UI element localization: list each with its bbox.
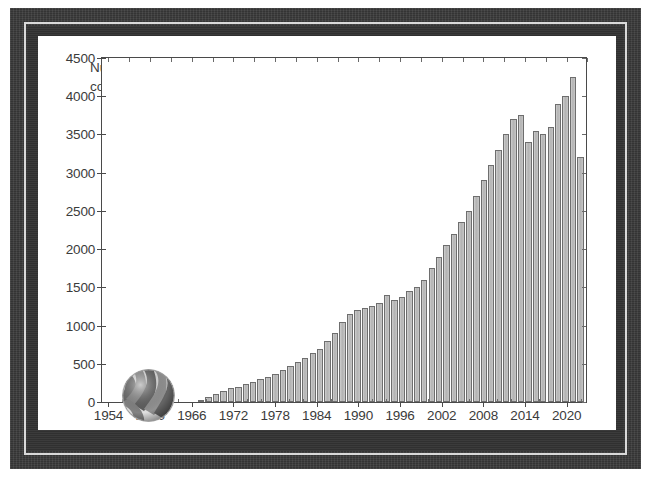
bar xyxy=(220,391,226,402)
x-axis-tick-top xyxy=(400,58,401,62)
x-axis-tick-top-minor xyxy=(587,58,588,62)
x-axis-tick xyxy=(317,402,318,407)
y-axis-tick-right xyxy=(582,96,586,97)
x-axis-tick-top-minor xyxy=(379,58,380,62)
y-axis-tick-right xyxy=(582,58,586,59)
x-axis-tick-top xyxy=(192,58,193,62)
x-axis-tick-top-minor xyxy=(129,58,130,62)
bar xyxy=(250,382,256,402)
x-axis-tick xyxy=(567,402,568,407)
x-axis-label: 1972 xyxy=(219,408,248,423)
x-axis-minor-tick xyxy=(497,399,498,402)
bar xyxy=(555,104,561,402)
y-axis-tick-right xyxy=(582,402,586,403)
x-axis-minor-tick xyxy=(469,399,470,402)
bar xyxy=(272,374,278,402)
y-axis-tick-inner xyxy=(102,96,106,97)
bar xyxy=(510,119,516,402)
bar xyxy=(421,280,427,402)
bar xyxy=(473,196,479,402)
x-axis-label: 1984 xyxy=(302,408,331,423)
x-axis-minor-tick xyxy=(428,399,429,402)
x-axis-minor-tick xyxy=(261,399,262,402)
bar xyxy=(332,333,338,402)
bar xyxy=(228,388,234,402)
x-axis-tick-top xyxy=(525,58,526,62)
x-axis-tick xyxy=(358,402,359,407)
bar xyxy=(302,358,308,402)
x-axis-minor-tick xyxy=(220,399,221,402)
bar xyxy=(429,268,435,402)
bar xyxy=(391,300,397,402)
y-axis-tick-inner xyxy=(102,211,106,212)
x-axis-label: 2002 xyxy=(427,408,456,423)
x-axis-tick-top xyxy=(358,58,359,62)
x-axis-tick-top-minor xyxy=(504,58,505,62)
x-axis-label: 1990 xyxy=(344,408,373,423)
x-axis-tick-top-minor xyxy=(213,58,214,62)
bar xyxy=(198,400,204,402)
x-axis-label: 2020 xyxy=(552,408,581,423)
x-axis-label: 1954 xyxy=(94,408,123,423)
bar xyxy=(562,96,568,402)
x-axis-minor-tick xyxy=(553,399,554,402)
x-axis-label: 1996 xyxy=(385,408,414,423)
bar xyxy=(369,306,375,402)
x-axis-minor-tick xyxy=(386,399,387,402)
y-axis-tick-inner xyxy=(102,173,106,174)
bar xyxy=(577,157,583,402)
x-axis-minor-tick xyxy=(456,399,457,402)
bar xyxy=(339,322,345,402)
x-axis-tick xyxy=(442,402,443,407)
bar xyxy=(443,245,449,402)
bar xyxy=(406,291,412,402)
bar xyxy=(548,127,554,402)
screenshot-root: Number of publications per year containi… xyxy=(0,0,651,477)
bar xyxy=(376,303,382,402)
x-axis-tick-top-minor xyxy=(296,58,297,62)
x-axis-minor-tick xyxy=(345,399,346,402)
bar xyxy=(503,134,509,402)
x-axis-tick-top xyxy=(150,58,151,62)
x-axis-tick-top xyxy=(567,58,568,62)
bar xyxy=(533,131,539,402)
x-axis-tick xyxy=(192,402,193,407)
y-axis-tick-right xyxy=(582,173,586,174)
x-axis-minor-tick xyxy=(303,399,304,402)
bar xyxy=(310,353,316,402)
x-axis-tick-top xyxy=(483,58,484,62)
y-axis-label: 500 xyxy=(73,356,95,371)
y-axis-label: 3500 xyxy=(66,127,95,142)
x-axis-tick xyxy=(108,402,109,407)
y-axis-label: 1500 xyxy=(66,280,95,295)
y-axis-tick-right xyxy=(582,364,586,365)
bar xyxy=(414,287,420,402)
bar xyxy=(399,297,405,402)
y-axis-tick-inner xyxy=(102,249,106,250)
y-axis-tick-right xyxy=(582,211,586,212)
y-axis-tick-inner xyxy=(102,287,106,288)
y-axis-tick-inner xyxy=(102,326,106,327)
bar xyxy=(235,387,241,402)
y-axis-label: 2000 xyxy=(66,242,95,257)
y-axis-tick-right xyxy=(582,287,586,288)
y-axis-tick-right xyxy=(582,249,586,250)
x-axis-tick-top-minor xyxy=(463,58,464,62)
x-axis-label: 1966 xyxy=(177,408,206,423)
bar xyxy=(570,77,576,402)
bar xyxy=(362,308,368,402)
x-axis-tick-top-minor xyxy=(171,58,172,62)
x-axis-tick-top xyxy=(108,58,109,62)
x-axis-tick-top xyxy=(233,58,234,62)
bar xyxy=(488,165,494,402)
x-axis-tick xyxy=(483,402,484,407)
bar xyxy=(436,257,442,402)
plot-area: 050010001500200025003000350040004500 195… xyxy=(101,57,587,403)
x-axis-minor-tick xyxy=(247,399,248,402)
x-axis-minor-tick xyxy=(289,399,290,402)
y-axis-tick-inner xyxy=(102,58,106,59)
x-axis-tick-top xyxy=(317,58,318,62)
bar xyxy=(540,134,546,402)
x-axis-label: 1978 xyxy=(260,408,289,423)
x-axis-tick xyxy=(233,402,234,407)
